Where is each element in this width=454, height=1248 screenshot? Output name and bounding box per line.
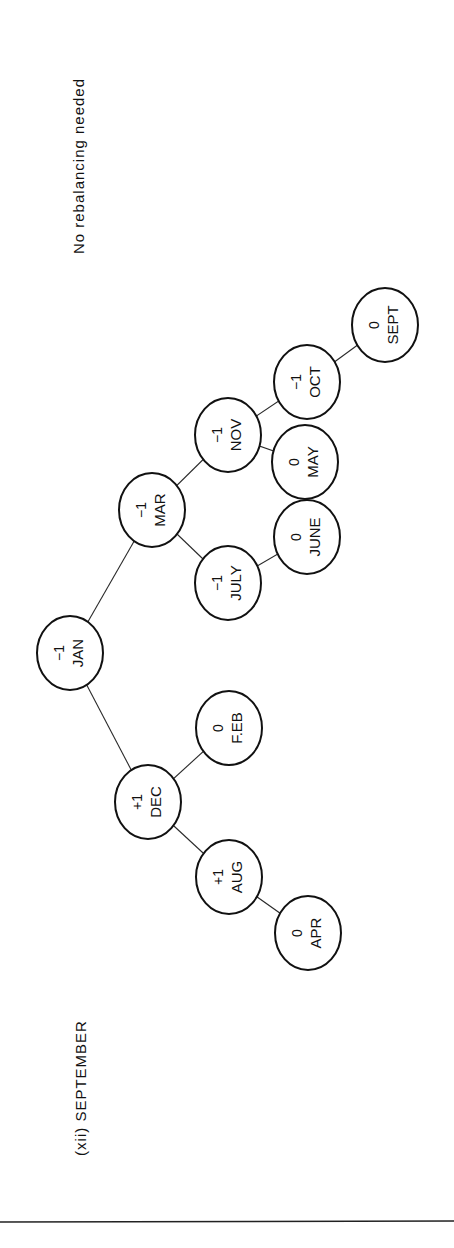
node-label: JAN (69, 639, 86, 667)
balance-factor: 0 (210, 724, 226, 732)
node-label: NOV (227, 419, 244, 452)
balance-factor: 0 (288, 533, 304, 541)
node-label: MAY (304, 446, 321, 477)
bottom-rule (0, 1221, 454, 1222)
note-text: No rebalancing needed (70, 78, 87, 254)
tree-node-feb: 0F.EB (196, 691, 262, 765)
balance-factor: −1 (51, 645, 67, 661)
balance-factor: 0 (286, 458, 302, 466)
tree-node-july: −1JULY (195, 546, 261, 620)
tree-node-sept: 0SEPT (352, 288, 418, 362)
node-label: SEPT (384, 305, 401, 344)
node-label: JULY (227, 565, 244, 601)
node-label: F.EB (228, 712, 245, 744)
tree-node-may: 0MAY (272, 425, 338, 499)
balance-factor: 0 (289, 929, 305, 937)
tree-nodes: −1JAN+1DEC−1MAR+1AUG0F.EB−1JULY−1NOV0APR… (37, 288, 418, 970)
balance-factor: −1 (133, 502, 149, 518)
tree-node-june: 0JUNE (274, 500, 340, 574)
tree-node-dec: +1DEC (115, 765, 181, 839)
node-label: DEC (147, 786, 164, 818)
tree-node-jan: −1JAN (37, 616, 103, 690)
balance-factor: −1 (288, 374, 304, 390)
tree-node-aug: +1AUG (196, 840, 262, 914)
balance-factor: 0 (366, 321, 382, 329)
node-label: JUNE (306, 517, 323, 556)
figure-caption: (xii) SEPTEMBER (72, 1020, 89, 1156)
node-label: OCT (306, 366, 323, 398)
tree-node-oct: −1OCT (274, 345, 340, 419)
tree-node-apr: 0APR (275, 896, 341, 970)
tree-node-mar: −1MAR (119, 473, 185, 547)
balance-factor: −1 (209, 427, 225, 443)
node-label: MAR (151, 493, 168, 527)
tree-node-nov: −1NOV (195, 398, 261, 472)
balance-factor: +1 (210, 869, 226, 885)
node-label: APR (307, 917, 324, 948)
balance-factor: +1 (129, 794, 145, 810)
avl-tree-diagram: −1JAN+1DEC−1MAR+1AUG0F.EB−1JULY−1NOV0APR… (0, 0, 454, 1248)
balance-factor: −1 (209, 575, 225, 591)
node-label: AUG (228, 861, 245, 894)
